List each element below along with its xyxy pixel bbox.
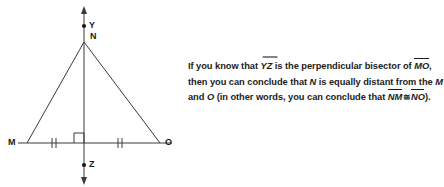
line1-text-b: is the perpendicular bisector of xyxy=(272,61,414,71)
line3-text-a: and xyxy=(188,92,207,102)
point-label-z: Z xyxy=(89,160,95,169)
explanation-text: If you know that YZ is the perpendicular… xyxy=(188,59,440,106)
segment-notation-mo: MO xyxy=(414,59,429,75)
line-notation-yz: YZ xyxy=(261,59,273,75)
line3-text-b: (in other words, you can conclude that xyxy=(214,92,388,102)
line2-text-b: is equally distant from the xyxy=(316,77,435,87)
explanation-line-1: If you know that YZ is the perpendicular… xyxy=(188,59,440,75)
side-mn xyxy=(27,42,84,143)
explanation-line-2: then you can conclude that N is equally … xyxy=(188,75,440,91)
point-label-y: Y xyxy=(89,21,95,30)
line-notation-yz-label: YZ xyxy=(261,61,273,71)
point-label-m: M xyxy=(8,138,16,147)
right-angle-marker-icon xyxy=(74,133,84,143)
explanation-line-3: and O (in other words, you can conclude … xyxy=(188,90,440,106)
figure-canvas: Y N M O Z If you know that YZ is the per… xyxy=(0,0,444,187)
point-dot-y xyxy=(82,24,86,28)
arrowhead-bottom-icon xyxy=(81,177,87,185)
arrowhead-top-icon xyxy=(81,6,87,14)
line2-text-a: then you can conclude that xyxy=(188,77,310,87)
point-dot-z xyxy=(82,163,86,167)
line1-text-a: If you know that xyxy=(188,61,261,71)
segment-notation-no: NO xyxy=(411,90,425,106)
side-no xyxy=(84,42,160,143)
geometry-diagram: Y N M O Z xyxy=(0,0,180,187)
segment-notation-nm: NM xyxy=(388,90,402,106)
double-arrow-icon xyxy=(260,55,280,59)
point-label-n: N xyxy=(90,32,97,41)
line3-text-c: ). xyxy=(425,92,431,102)
congruence-symbol: ≅ xyxy=(402,92,411,102)
line-yz xyxy=(81,6,87,185)
point-label-o: O xyxy=(165,138,172,147)
point-ref-m: M xyxy=(435,77,443,87)
line1-text-c: , xyxy=(429,61,432,71)
